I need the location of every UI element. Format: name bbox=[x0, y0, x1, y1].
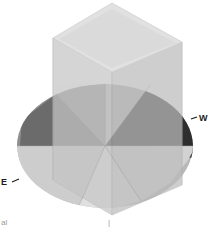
compass-label-east: E bbox=[1, 177, 7, 187]
figure-canvas bbox=[0, 0, 220, 229]
bottom-center-clipped-text: | bbox=[108, 218, 110, 227]
bottom-left-clipped-text: al bbox=[1, 218, 7, 227]
prism-right-face bbox=[112, 42, 182, 215]
shadow-range-figure: E W al | bbox=[0, 0, 220, 229]
compass-label-west: W bbox=[199, 113, 208, 123]
building-massing-prism bbox=[53, 3, 182, 215]
